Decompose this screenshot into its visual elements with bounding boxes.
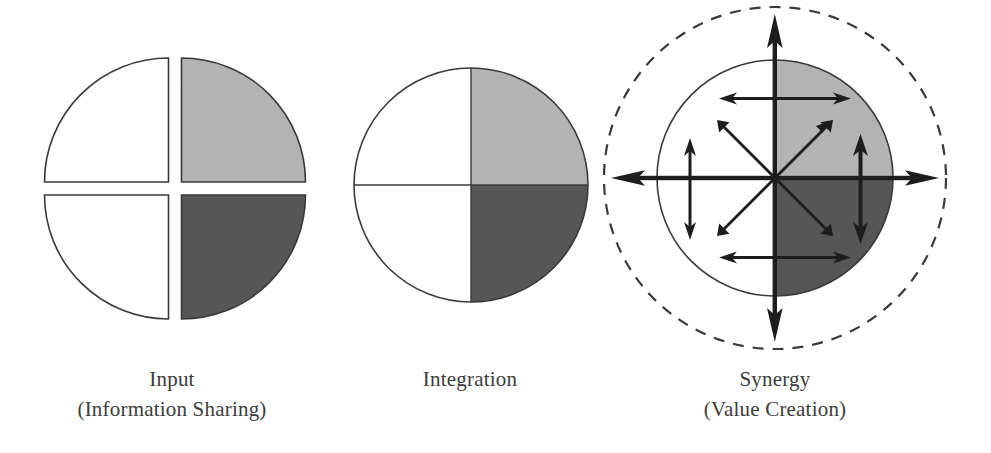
quadrant-top-right <box>471 68 588 185</box>
panel-integration-graphic <box>348 62 594 308</box>
caption-input: Input (Information Sharing) <box>22 364 322 424</box>
caption-integration-line1: Integration <box>370 364 570 394</box>
quadrant-bottom-left <box>45 195 169 319</box>
quadrant-bottom-right <box>471 185 588 302</box>
caption-integration: Integration <box>370 364 570 394</box>
caption-synergy: Synergy (Value Creation) <box>640 364 910 424</box>
caption-input-line1: Input <box>22 364 322 394</box>
caption-synergy-line1: Synergy <box>640 364 910 394</box>
quadrant-bottom-right <box>182 195 306 319</box>
quadrant-top-right <box>182 58 306 182</box>
quadrant-top-left <box>45 58 169 182</box>
diagram-canvas: Input (Information Sharing) Integration … <box>0 0 991 453</box>
panel-synergy-graphic <box>595 0 955 360</box>
quadrant-top-left <box>354 68 471 185</box>
caption-input-line2: (Information Sharing) <box>22 394 322 424</box>
quadrant-bottom-left <box>354 185 471 302</box>
panel-input-graphic <box>30 40 320 330</box>
caption-synergy-line2: (Value Creation) <box>640 394 910 424</box>
